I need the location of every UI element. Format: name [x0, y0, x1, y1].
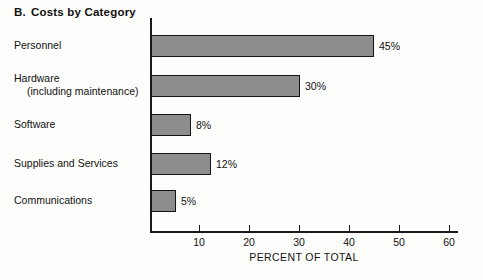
x-tick-label: 30	[293, 236, 305, 248]
plot-area: Personnel 45% Hardware (including mainte…	[0, 0, 483, 280]
category-label: Supplies and Services	[14, 157, 118, 170]
category-label: Communications	[14, 194, 92, 207]
x-tick-label: 10	[193, 236, 205, 248]
category-label: Personnel	[14, 39, 61, 52]
bar-supplies-and-services	[151, 153, 211, 175]
x-axis-title: PERCENT OF TOTAL	[150, 251, 458, 263]
category-label-main: Personnel	[14, 39, 61, 51]
bar-communications	[151, 190, 176, 212]
category-label-main: Hardware	[14, 72, 60, 84]
bar-hardware	[151, 75, 300, 97]
bar-software	[151, 114, 191, 136]
bar-value-label: 8%	[196, 119, 211, 131]
category-label-main: Software	[14, 118, 55, 130]
category-label: Software	[14, 118, 55, 131]
x-tick-label: 20	[243, 236, 255, 248]
x-tick-mark	[249, 225, 250, 233]
x-tick-mark	[199, 225, 200, 233]
category-label-main: Communications	[14, 194, 92, 206]
category-label-subline: (including maintenance)	[14, 85, 138, 98]
chart-figure: B.Costs by Category Personnel 45% Hardwa…	[0, 0, 483, 280]
category-label-main: Supplies and Services	[14, 157, 118, 169]
bar-value-label: 45%	[379, 40, 400, 52]
x-tick-label: 40	[343, 236, 355, 248]
bar-value-label: 5%	[181, 195, 196, 207]
x-axis-line	[150, 231, 458, 233]
bar-value-label: 12%	[216, 158, 237, 170]
x-tick-mark	[299, 225, 300, 233]
x-tick-label: 50	[393, 236, 405, 248]
bar-value-label: 30%	[305, 80, 326, 92]
bar-personnel	[151, 35, 374, 57]
category-label: Hardware (including maintenance)	[14, 72, 138, 97]
x-tick-mark	[399, 225, 400, 233]
x-tick-mark	[449, 225, 450, 233]
x-tick-mark	[349, 225, 350, 233]
x-tick-label: 60	[443, 236, 455, 248]
